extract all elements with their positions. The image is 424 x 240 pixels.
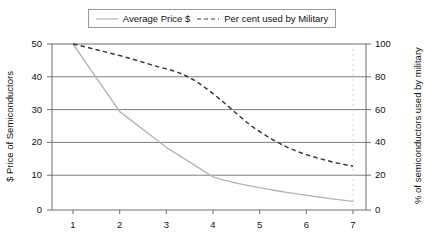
right-ytick-20: 20 (375, 170, 399, 180)
left-ytick-40: 40 (22, 72, 42, 82)
right-axis-ticks (366, 44, 371, 210)
left-ytick-30: 30 (22, 105, 42, 115)
right-ytick-80: 80 (375, 72, 399, 82)
left-ytick-10: 10 (22, 170, 42, 180)
left-axis-ticks (47, 44, 52, 210)
left-ytick-50: 50 (22, 39, 42, 49)
xtick-3: 3 (156, 220, 176, 230)
semiconductor-price-military-chart: Average Price $ Per cent used by Militar… (0, 0, 424, 240)
right-ytick-40: 40 (375, 137, 399, 147)
left-ytick-0: 0 (22, 205, 42, 215)
xtick-5: 5 (250, 220, 270, 230)
left-axis-title: $ Price of Semiconductors (5, 44, 15, 210)
right-ytick-100: 100 (375, 39, 399, 49)
right-ytick-0: 0 (375, 205, 399, 215)
xtick-7: 7 (343, 220, 363, 230)
xtick-6: 6 (296, 220, 316, 230)
right-axis-title: % of semiconductors used by military (413, 36, 423, 216)
xtick-1: 1 (63, 220, 83, 230)
x-axis-ticks (73, 210, 353, 214)
plot-frame (52, 44, 366, 210)
xtick-2: 2 (110, 220, 130, 230)
right-ytick-60: 60 (375, 105, 399, 115)
left-ytick-20: 20 (22, 137, 42, 147)
plot-area (0, 0, 424, 240)
xtick-4: 4 (203, 220, 223, 230)
